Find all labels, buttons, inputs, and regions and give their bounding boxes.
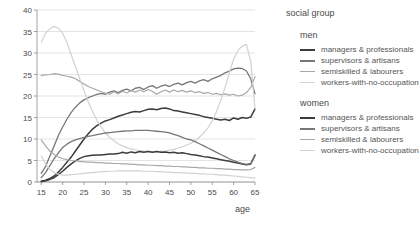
x-axis-title: age [235, 204, 250, 214]
legend-group-men: menmanagers & professionalssupervisors &… [286, 30, 408, 88]
legend-title: social group [286, 8, 408, 18]
x-tick-label: 50 [186, 188, 195, 197]
legend-item-label: workers-with-no-occupation [321, 78, 419, 87]
x-tick-label: 30 [101, 188, 110, 197]
x-tick-label: 60 [229, 188, 238, 197]
legend-swatch-icon [300, 71, 315, 72]
data-series-layer [41, 26, 255, 181]
legend-swatch-icon [300, 49, 315, 51]
legend-item-label: supervisors & artisans [321, 124, 400, 133]
x-tick-label: 35 [122, 188, 131, 197]
legend-item[interactable]: managers & professionals [300, 44, 408, 55]
y-tick-label: 40 [23, 6, 32, 15]
series-line [41, 68, 255, 173]
legend-item-label: managers & professionals [321, 113, 414, 122]
legend-item[interactable]: workers-with-no-occupation [300, 77, 408, 88]
legend-group-title: women [300, 98, 408, 108]
legend-item-label: semiskilled & labourers [321, 135, 403, 144]
x-axis-ticks: 1520253035404550556065 [37, 182, 260, 197]
x-tick-label: 65 [251, 188, 260, 197]
x-tick-label: 45 [165, 188, 174, 197]
series-line [41, 108, 255, 181]
y-tick-label: 25 [23, 71, 32, 80]
legend-item-label: semiskilled & labourers [321, 67, 403, 76]
x-tick-label: 15 [37, 188, 46, 197]
legend-group-women: womenmanagers & professionalssupervisors… [286, 98, 408, 156]
legend-item[interactable]: semiskilled & labourers [300, 66, 408, 77]
x-tick-label: 55 [208, 188, 217, 197]
legend-swatch-icon [300, 128, 315, 130]
legend-item[interactable]: workers-with-no-occupation [300, 145, 408, 156]
line-chart-svg: 0510152025303540 1520253035404550556065 … [0, 0, 270, 228]
legend-item-label: supervisors & artisans [321, 56, 400, 65]
y-axis-ticks: 0510152025303540 [23, 6, 37, 187]
y-tick-label: 0 [28, 178, 33, 187]
legend: social group menmanagers & professionals… [286, 8, 408, 166]
y-tick-label: 35 [23, 28, 32, 37]
legend-swatch-icon [300, 117, 315, 119]
legend-swatch-icon [300, 150, 315, 151]
legend-item[interactable]: managers & professionals [300, 112, 408, 123]
legend-swatch-icon [300, 60, 315, 62]
legend-item[interactable]: semiskilled & labourers [300, 134, 408, 145]
x-tick-label: 20 [58, 188, 67, 197]
legend-item[interactable]: supervisors & artisans [300, 55, 408, 66]
y-tick-label: 5 [28, 157, 33, 166]
x-tick-label: 40 [144, 188, 153, 197]
chart-plot-region: 0510152025303540 1520253035404550556065 … [0, 0, 270, 228]
y-tick-label: 10 [23, 135, 32, 144]
y-tick-label: 30 [23, 49, 32, 58]
legend-group-title: men [300, 30, 408, 40]
legend-swatch-icon [300, 139, 315, 140]
x-tick-label: 25 [80, 188, 89, 197]
y-tick-label: 20 [23, 92, 32, 101]
legend-swatch-icon [300, 82, 315, 83]
y-tick-label: 15 [23, 114, 32, 123]
legend-item-label: workers-with-no-occupation [321, 146, 419, 155]
legend-groups: menmanagers & professionalssupervisors &… [286, 30, 408, 156]
legend-item-label: managers & professionals [321, 45, 414, 54]
legend-item[interactable]: supervisors & artisans [300, 123, 408, 134]
